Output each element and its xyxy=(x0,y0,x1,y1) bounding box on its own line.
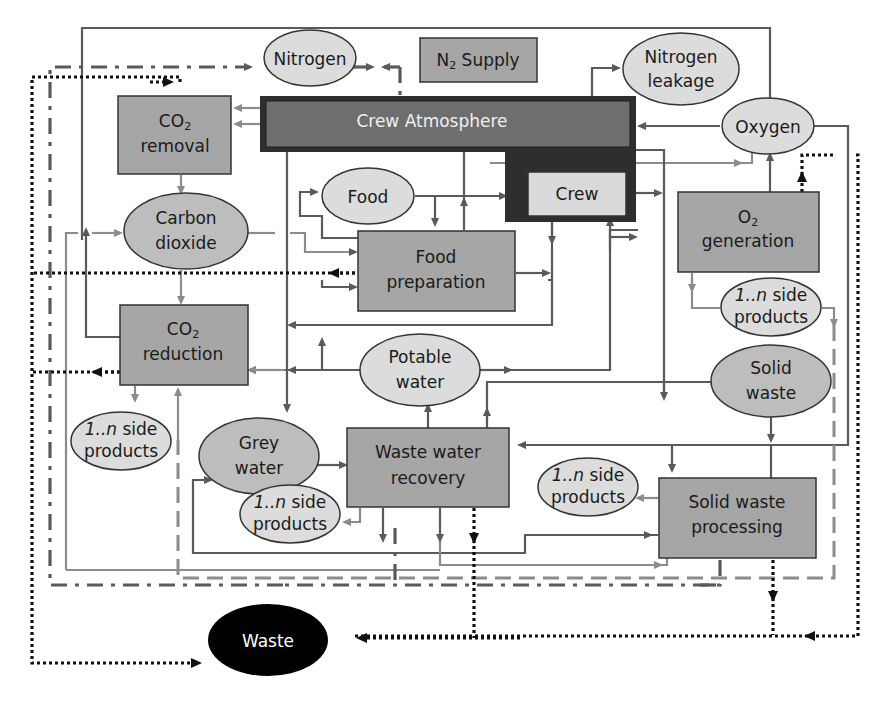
node-potable-water[interactable]: Potable water xyxy=(360,334,480,406)
node-waste[interactable]: Waste xyxy=(208,604,328,676)
node-crew-atmosphere-label: Crew Atmosphere xyxy=(356,111,507,131)
node-solid-waste[interactable]: Solid waste xyxy=(711,345,831,417)
node-crew-label: Crew xyxy=(556,184,599,204)
node-crew[interactable]: Crew xyxy=(528,172,626,216)
node-carbon-dioxide-line1: Carbon xyxy=(155,208,216,228)
node-nitrogen-leakage-line2: leakage xyxy=(648,71,715,91)
node-food-label: Food xyxy=(348,187,389,207)
node-solid-waste-processing[interactable]: Solid waste processing xyxy=(659,478,816,558)
diagram-canvas: Nitrogen N2 Supply Nitrogen leakage CO2 … xyxy=(0,0,892,708)
node-oxygen[interactable]: Oxygen xyxy=(722,98,814,154)
node-wwr-side-products-line1: 1..n side xyxy=(254,492,327,512)
flow-diagram: Nitrogen N2 Supply Nitrogen leakage CO2 … xyxy=(0,0,892,708)
node-nitrogen-leakage[interactable]: Nitrogen leakage xyxy=(623,33,739,105)
node-o2-generation[interactable]: O2 generation xyxy=(678,192,819,272)
node-food[interactable]: Food xyxy=(322,168,414,224)
node-waste-label: Waste xyxy=(242,631,294,651)
node-carbon-dioxide-line2: dioxide xyxy=(155,233,216,253)
node-o2-side-products[interactable]: 1..n side products xyxy=(721,278,821,336)
node-grey-water[interactable]: Grey water xyxy=(199,418,319,494)
node-wwr-side-products[interactable]: 1..n side products xyxy=(240,485,340,543)
node-potable-water-line1: Potable xyxy=(388,347,451,367)
node-co2-side-products[interactable]: 1..n side products xyxy=(71,412,171,470)
node-co2-removal[interactable]: CO2 removal xyxy=(118,96,231,174)
node-co2-side-products-line2: products xyxy=(84,441,158,461)
node-food-preparation[interactable]: Food preparation xyxy=(358,231,515,311)
node-potable-water-line2: water xyxy=(396,372,444,392)
node-n2-supply-label: N2 Supply xyxy=(436,50,519,72)
node-nitrogen-leakage-line1: Nitrogen xyxy=(644,47,717,67)
node-solid-waste-line1: Solid xyxy=(750,358,791,378)
node-waste-water-recovery[interactable]: Waste water recovery xyxy=(347,428,509,507)
node-co2-reduction-line2: reduction xyxy=(143,344,224,364)
node-grey-water-line1: Grey xyxy=(239,433,279,453)
node-solid-waste-processing-line1: Solid waste xyxy=(688,492,785,512)
node-nitrogen[interactable]: Nitrogen xyxy=(264,30,356,86)
node-sw-side-products-line1: 1..n side xyxy=(552,465,625,485)
node-o2-side-products-line2: products xyxy=(734,307,808,327)
node-oxygen-label: Oxygen xyxy=(735,117,801,137)
node-waste-water-recovery-line2: recovery xyxy=(391,468,465,488)
node-food-preparation-line2: preparation xyxy=(386,272,485,292)
node-sw-side-products-line2: products xyxy=(551,487,625,507)
node-wwr-side-products-line2: products xyxy=(253,514,327,534)
node-solid-waste-processing-line2: processing xyxy=(691,517,783,537)
node-grey-water-line2: water xyxy=(235,458,283,478)
node-waste-water-recovery-line1: Waste water xyxy=(375,442,481,462)
node-n2-supply[interactable]: N2 Supply xyxy=(420,38,537,82)
node-o2-side-products-line1: 1..n side xyxy=(735,285,808,305)
node-carbon-dioxide[interactable]: Carbon dioxide xyxy=(124,193,248,269)
node-nitrogen-label: Nitrogen xyxy=(273,49,346,69)
node-o2-generation-line2: generation xyxy=(702,231,794,251)
node-solid-waste-line2: waste xyxy=(746,383,796,403)
node-food-preparation-line1: Food xyxy=(416,247,457,267)
node-co2-removal-line2: removal xyxy=(140,136,209,156)
node-co2-reduction[interactable]: CO2 reduction xyxy=(120,305,248,385)
node-co2-side-products-line1: 1..n side xyxy=(85,419,158,439)
node-sw-side-products[interactable]: 1..n side products xyxy=(538,458,638,516)
